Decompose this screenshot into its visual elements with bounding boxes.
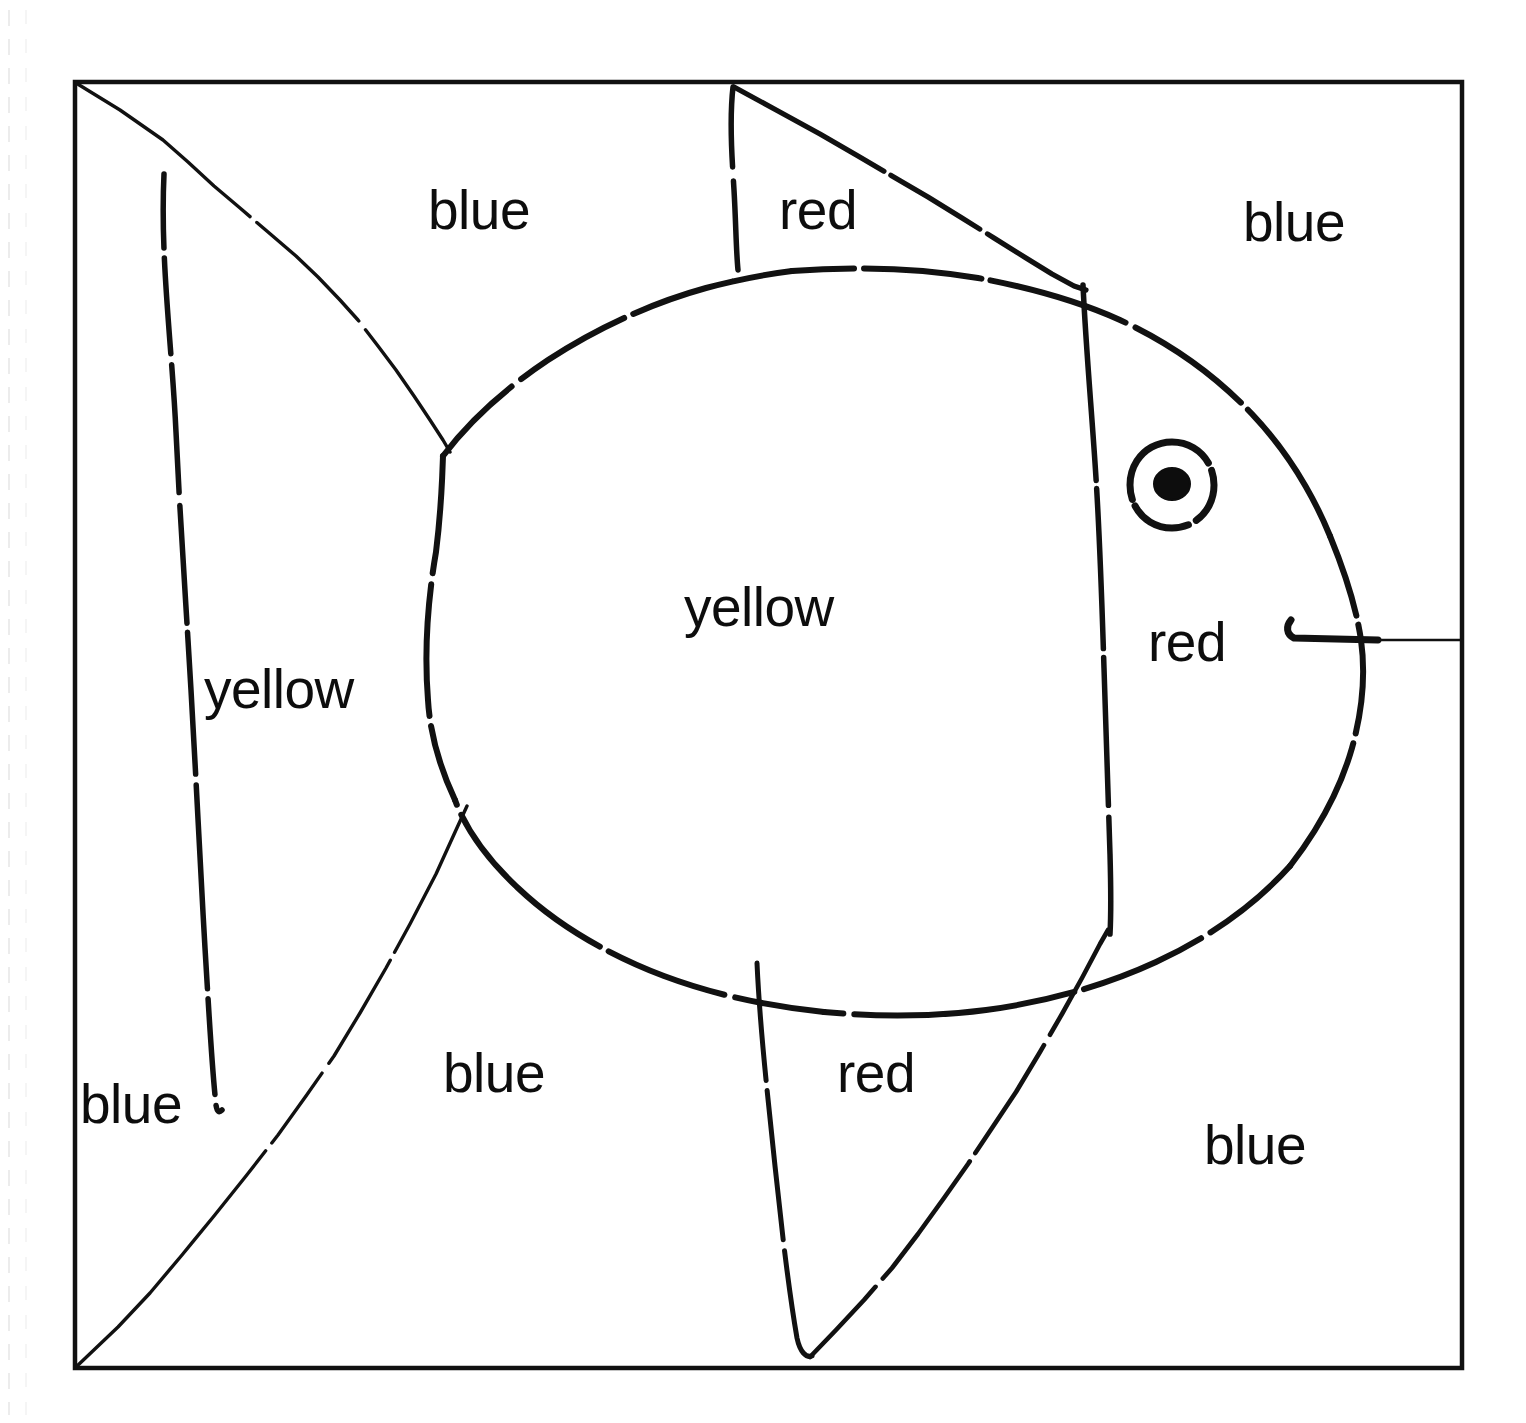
eye-pupil: [1154, 468, 1190, 500]
label-blue-bottom-left: blue: [443, 1046, 545, 1101]
label-red-head: red: [1148, 615, 1226, 670]
label-red-dorsal-fin: red: [779, 183, 857, 238]
mouth-line: [1288, 620, 1378, 640]
tail-upper-edge: [76, 83, 450, 452]
label-blue-tail-corner: blue: [80, 1077, 182, 1132]
scan-margin-dashes: [9, 10, 26, 1415]
gill-line: [1083, 285, 1111, 934]
label-blue-top-right: blue: [1243, 195, 1345, 250]
dorsal-fin-vertical-edge: [731, 87, 738, 270]
label-yellow-tail: yellow: [204, 662, 354, 717]
tail-inner-line: [163, 174, 222, 1112]
label-yellow-body: yellow: [684, 580, 834, 635]
anal-fin-vertical-edge: [757, 963, 812, 1356]
label-blue-bottom-right: blue: [1204, 1118, 1306, 1173]
label-blue-top-left: blue: [428, 183, 530, 238]
label-red-anal-fin: red: [837, 1046, 915, 1101]
figure-canvas: blue red blue yellow red yellow blue blu…: [0, 0, 1526, 1423]
